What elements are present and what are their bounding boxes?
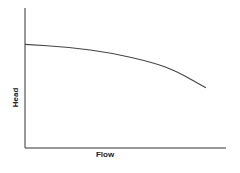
y-axis-label: Head (11, 86, 20, 110)
pump-curve-chart (0, 0, 240, 173)
x-axis-label: Flow (93, 150, 117, 159)
head-flow-curve (25, 44, 206, 87)
